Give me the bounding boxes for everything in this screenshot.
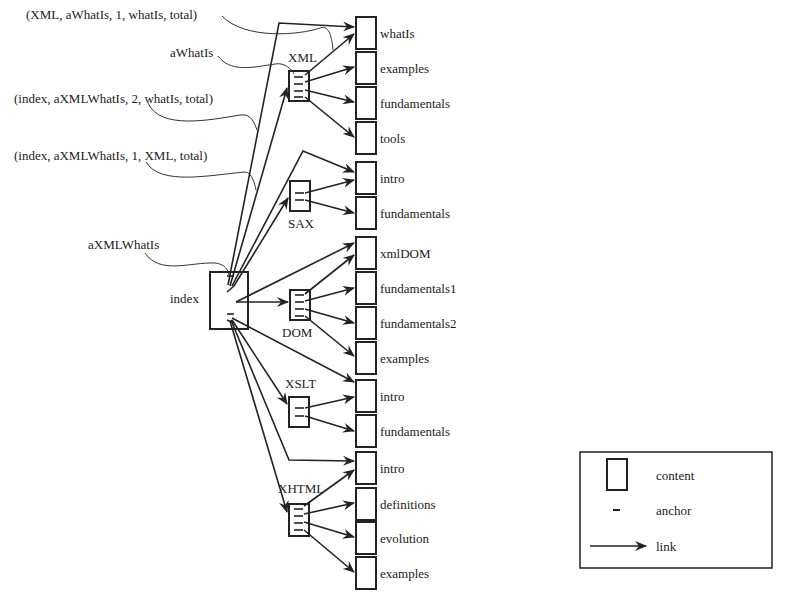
annotations: (XML, aWhatIs, 1, whatIs, total) aWhatIs…	[14, 7, 333, 275]
page-label: tools	[380, 131, 405, 146]
link-arrow	[305, 288, 354, 301]
link-arrow	[304, 522, 354, 537]
page-label: whatIs	[380, 26, 415, 41]
page-box-tools	[356, 122, 376, 154]
page-box-xml-examples	[356, 52, 376, 84]
page-box-xslt-intro	[356, 380, 376, 412]
link-arrow	[305, 316, 354, 356]
page-label: examples	[380, 351, 429, 366]
link-arrow	[305, 180, 354, 193]
group-xslt: XSLT	[285, 376, 316, 427]
group-label-dom: DOM	[282, 325, 313, 340]
link-arrow	[304, 530, 354, 572]
page-box-definitions	[356, 488, 376, 520]
group-box-sax	[290, 181, 310, 211]
content-icon	[607, 459, 627, 490]
page-label: fundamentals1	[380, 281, 457, 296]
index-label: index	[170, 291, 199, 306]
legend-link-label: link	[656, 539, 677, 554]
annotation-index-1-xml: (index, aXMLWhatIs, 1, XML, total)	[14, 148, 207, 163]
annotation-index-2-whatis: (index, aXMLWhatIs, 2, whatIs, total)	[14, 91, 213, 106]
link-arrow	[305, 255, 354, 294]
page-box-xhtml-examples	[356, 557, 376, 589]
page-box-fundamentals1	[356, 272, 376, 304]
group-label-sax: SAX	[288, 216, 315, 231]
page-label: examples	[380, 566, 429, 581]
callout-line	[148, 103, 257, 130]
annotation-xml-whatis: (XML, aWhatIs, 1, whatIs, total)	[26, 7, 197, 22]
page-label: intro	[380, 461, 405, 476]
page-label: evolution	[380, 531, 430, 546]
link-arrow	[305, 416, 354, 431]
legend-content-label: content	[656, 468, 695, 483]
group-dom: DOM	[282, 290, 313, 340]
annotation-awhatis: aWhatIs	[170, 45, 213, 60]
page-box-whatis	[356, 17, 376, 49]
page-label: intro	[380, 389, 405, 404]
page-label: fundamentals2	[380, 316, 457, 331]
page-labels: whatIs examples fundamentals tools intro…	[380, 26, 457, 581]
page-box-xslt-fundamentals	[356, 415, 376, 447]
page-box-xml-fundamentals	[356, 87, 376, 119]
link-arrow	[304, 503, 354, 514]
page-label: definitions	[380, 497, 436, 512]
page-box-xmldom	[356, 237, 376, 269]
callout-line	[146, 162, 256, 190]
link-arrow	[230, 321, 287, 512]
page-box-evolution	[356, 522, 376, 554]
annotation-axmlwhatis: aXMLWhatIs	[88, 237, 159, 252]
link-arrow	[305, 397, 354, 408]
page-box-dom-examples	[356, 342, 376, 374]
link-arrow	[230, 88, 287, 286]
group-box-xslt	[289, 397, 309, 427]
page-label: xmlDOM	[380, 246, 431, 261]
hypermedia-structure-diagram: whatIs examples fundamentals tools intro…	[0, 0, 786, 597]
page-box-fundamentals2	[356, 307, 376, 339]
page-boxes	[356, 17, 376, 589]
group-label-xhtml: XHTML	[278, 481, 324, 496]
page-label: fundamentals	[380, 424, 450, 439]
callout-line	[218, 56, 294, 74]
page-box-xhtml-intro	[356, 452, 376, 484]
link-arrow	[305, 200, 354, 213]
page-box-sax-fundamentals	[356, 197, 376, 229]
legend-anchor-label: anchor	[656, 503, 692, 518]
group-sax: SAX	[288, 181, 315, 231]
link-arrow	[305, 97, 354, 137]
page-label: fundamentals	[380, 96, 450, 111]
link-arrow	[305, 309, 354, 323]
page-label: examples	[380, 61, 429, 76]
page-label: fundamentals	[380, 206, 450, 221]
group-xml: XML	[288, 50, 317, 101]
group-label-xml: XML	[288, 50, 317, 65]
link-arrow	[305, 90, 354, 102]
group-xhtml: XHTML	[278, 481, 324, 536]
page-label: intro	[380, 171, 405, 186]
group-label-xslt: XSLT	[285, 376, 316, 391]
legend: content anchor link	[580, 452, 772, 568]
page-box-sax-intro	[356, 162, 376, 194]
